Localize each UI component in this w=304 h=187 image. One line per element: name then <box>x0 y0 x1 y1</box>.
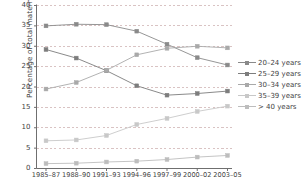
series-marker <box>135 53 139 57</box>
series-marker <box>74 138 78 142</box>
series-marker <box>226 46 230 50</box>
series-marker <box>195 56 199 60</box>
x-tick-label: 1991–93 <box>92 171 120 179</box>
legend-marker-icon <box>245 72 249 76</box>
series-marker <box>195 110 199 114</box>
legend-swatch-icon <box>238 102 256 111</box>
series-marker <box>226 89 230 93</box>
legend-label: 25–29 years <box>256 70 301 78</box>
series-marker <box>195 92 199 96</box>
series-marker <box>74 81 78 85</box>
series-marker <box>165 46 169 50</box>
series-marker <box>105 134 109 138</box>
x-tick-label: 2000–02 <box>183 171 211 179</box>
legend-item-4[interactable]: 35–39 years <box>238 90 301 101</box>
series-marker <box>74 161 78 165</box>
series-marker <box>165 116 169 120</box>
series-marker <box>74 22 78 26</box>
x-tick-label: 1988–90 <box>62 171 90 179</box>
x-tick-label: 1994–96 <box>123 171 151 179</box>
series-marker <box>44 48 48 52</box>
legend-label: 20–24 years <box>256 59 301 67</box>
series-marker <box>44 24 48 28</box>
series-marker <box>44 87 48 91</box>
series-marker <box>165 42 169 46</box>
legend-marker-icon <box>245 61 249 65</box>
series-marker <box>195 44 199 48</box>
legend-swatch-icon <box>238 91 256 100</box>
legend-label: > 40 years <box>256 103 297 111</box>
legend-marker-icon <box>245 94 249 98</box>
legend-marker-icon <box>245 83 249 87</box>
series-marker <box>105 23 109 27</box>
series-marker <box>195 155 199 159</box>
series-marker <box>135 29 139 33</box>
series-marker <box>226 154 230 158</box>
series-marker <box>105 68 109 72</box>
legend-swatch-icon <box>238 58 256 67</box>
series-marker <box>226 63 230 67</box>
series-marker <box>74 56 78 60</box>
chart-container: Percentage of total maternities 40353025… <box>0 0 304 187</box>
legend-item-5[interactable]: > 40 years <box>238 101 301 112</box>
legend-label: 30–34 years <box>256 81 301 89</box>
series-marker <box>135 159 139 163</box>
series-marker <box>226 104 230 108</box>
legend-item-2[interactable]: 25–29 years <box>238 68 301 79</box>
legend-swatch-icon <box>238 69 256 78</box>
legend-item-1[interactable]: 20–24 years <box>238 57 301 68</box>
series-marker <box>105 160 109 164</box>
x-tick-label: 1985–87 <box>32 171 60 179</box>
legend-item-3[interactable]: 30–34 years <box>238 79 301 90</box>
x-tick-label: 1997–99 <box>153 171 181 179</box>
series-marker <box>165 158 169 162</box>
legend-swatch-icon <box>238 80 256 89</box>
x-tick-label: 2003–05 <box>213 171 241 179</box>
chart-legend: 20–24 years25–29 years30–34 years35–39 y… <box>238 57 301 112</box>
legend-marker-icon <box>245 105 249 109</box>
series-marker <box>135 84 139 88</box>
series-marker <box>135 123 139 127</box>
legend-label: 35–39 years <box>256 92 301 100</box>
series-marker <box>165 93 169 97</box>
series-marker <box>44 139 48 143</box>
series-marker <box>44 162 48 166</box>
